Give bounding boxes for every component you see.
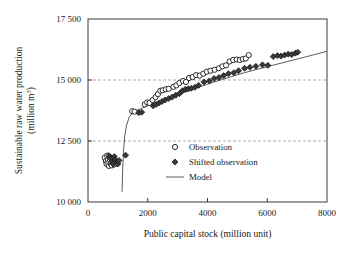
y-tick-label-10000: 10 000 [56,197,81,207]
legend-label-model: Model [189,172,213,182]
legend-marker-shifted-observation [172,159,178,165]
y-tick-label-17500: 17 500 [56,14,81,24]
y-axis-title-line1: Sustainable raw water production [14,47,24,175]
x-axis-title: Public capital stock (million unit) [144,229,272,240]
scatter-plot: 0200040006000800010 00012 50015 00017 50… [0,0,347,260]
data-point-shifted-observation [253,63,259,69]
x-tick-label-8000: 8000 [318,208,337,218]
data-point-shifted-observation [247,64,253,70]
data-point-shifted-observation [201,79,207,85]
legend-label-shifted-observation: Shifted observation [189,157,258,167]
data-point-shifted-observation [242,65,248,71]
y-axis-title-line2: (million m3) [25,87,37,134]
chart-figure: 0200040006000800010 00012 50015 00017 50… [0,0,347,260]
x-tick-label-4000: 4000 [199,208,218,218]
y-tick-label-15000: 15 000 [56,75,81,85]
chart-legend: ObservationShifted observationModel [166,142,258,182]
y-tick-label-12500: 12 500 [56,136,81,146]
legend-marker-observation [172,144,177,149]
data-point-observation [246,53,251,58]
legend-label-observation: Observation [189,142,233,152]
model-line-series [122,51,327,192]
y-axis-title: Sustainable raw water production(million… [14,47,37,175]
y-axis-title-close-paren: ) [26,87,37,90]
x-tick-label-0: 0 [86,208,91,218]
x-tick-label-2000: 2000 [139,208,158,218]
x-tick-label-6000: 6000 [258,208,277,218]
